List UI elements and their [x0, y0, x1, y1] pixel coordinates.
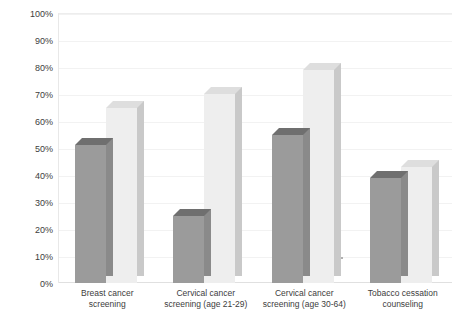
bar-group	[272, 13, 341, 283]
stray-speck	[341, 257, 343, 259]
bar-series-1-2	[173, 216, 204, 284]
bar-top-face	[303, 63, 341, 70]
x-axis-category-label-line: screening	[54, 299, 161, 310]
bar-side-face	[303, 128, 310, 277]
bar-side-face	[401, 171, 408, 276]
x-axis-category-label-line: Tobacco cessation	[350, 288, 457, 299]
bar-front-face	[272, 135, 303, 284]
x-axis-category-label: Cervical cancerscreening (age 30-64)	[251, 288, 358, 310]
y-axis-tick-label: 90%	[1, 36, 53, 46]
bar-side-face	[334, 63, 341, 276]
bar-group	[173, 13, 242, 283]
bar-side-face	[235, 87, 242, 276]
bar-top-face	[272, 128, 310, 135]
x-axis-category-label-line: Breast cancer	[54, 288, 161, 299]
bar-series-1-3	[272, 135, 303, 284]
bar-side-face	[204, 209, 211, 277]
x-axis-category-label-line: screening (age 30-64)	[251, 299, 358, 310]
x-axis-category-label-line: Cervical cancer	[251, 288, 358, 299]
y-axis-tick-label: 30%	[1, 198, 53, 208]
plot-area: 100%90%80%70%60%50%40%30%20%10%0%	[58, 13, 452, 283]
x-axis-category-label-line: screening (age 21-29)	[153, 299, 260, 310]
bar-group	[370, 13, 439, 283]
x-axis-category-label-line: counseling	[350, 299, 457, 310]
x-axis-category-label: Breast cancerscreening	[54, 288, 161, 310]
x-axis-category-label: Tobacco cessationcounseling	[350, 288, 457, 310]
bar-series-1-1	[75, 145, 106, 283]
bar-front-face	[75, 145, 106, 283]
bar-side-face	[106, 138, 113, 276]
bar-side-face	[432, 160, 439, 276]
bar-group	[75, 13, 144, 283]
bar-front-face	[370, 178, 401, 283]
y-axis-tick-label: 40%	[1, 171, 53, 181]
bar-series-1-4	[370, 178, 401, 283]
bar-top-face	[173, 209, 211, 216]
y-axis-tick-label: 0%	[1, 279, 53, 289]
bar-top-face	[106, 101, 144, 108]
y-axis-tick-label: 60%	[1, 117, 53, 127]
bar-front-face	[173, 216, 204, 284]
bar-chart: 100%90%80%70%60%50%40%30%20%10%0% Breast…	[0, 0, 458, 321]
y-axis-tick-label: 100%	[1, 9, 53, 19]
bar-side-face	[137, 101, 144, 277]
y-axis-tick-label: 80%	[1, 63, 53, 73]
y-axis-tick-label: 20%	[1, 225, 53, 235]
y-axis-tick-label: 10%	[1, 252, 53, 262]
x-axis-category-label: Cervical cancerscreening (age 21-29)	[153, 288, 260, 310]
x-axis-category-label-line: Cervical cancer	[153, 288, 260, 299]
y-axis-tick-label: 70%	[1, 90, 53, 100]
y-axis-tick-label: 50%	[1, 144, 53, 154]
